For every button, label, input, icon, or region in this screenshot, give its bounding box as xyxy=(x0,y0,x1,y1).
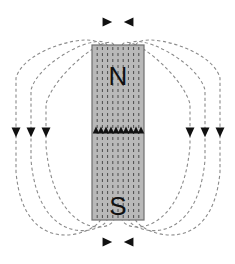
field-arrow-down xyxy=(216,128,225,138)
field-line-loop xyxy=(136,40,220,235)
field-arrow-right xyxy=(103,238,113,247)
field-arrow-down xyxy=(27,128,36,138)
south-pole-label: S xyxy=(109,191,126,221)
field-line-loop xyxy=(16,40,100,235)
field-arrow-left xyxy=(124,18,134,27)
field-arrow-down xyxy=(186,128,195,138)
field-arrow-down xyxy=(12,128,21,138)
magnetic-field-diagram: N S xyxy=(0,0,235,264)
field-line-canvas: N S xyxy=(0,0,235,264)
field-arrow-left xyxy=(124,238,134,247)
field-arrow-down xyxy=(42,128,51,138)
field-arrow-down xyxy=(201,128,210,138)
field-arrow-right xyxy=(103,18,113,27)
north-pole-label: N xyxy=(109,61,128,91)
